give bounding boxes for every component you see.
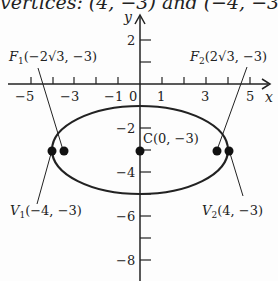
y-tick-label: −6: [116, 209, 135, 224]
y-axis-label: y: [123, 9, 133, 25]
y-tick-label: 2: [127, 33, 135, 48]
x-axis-label: x: [265, 89, 273, 105]
vertex-v2-label: V2(4, −3): [202, 203, 263, 220]
focus-f1-label: F1(−2√3, −3): [8, 49, 97, 66]
y-tick-label: −4: [116, 165, 135, 180]
x-tick-label: 5: [246, 89, 254, 104]
y-tick-label: −8: [116, 253, 135, 268]
x-tick-label: −5: [15, 89, 34, 104]
center-point: [136, 147, 145, 156]
leader-lines: [37, 67, 247, 204]
x-tick-label: −3: [60, 89, 79, 104]
x-tick-label: 0: [129, 89, 137, 104]
x-tick-label: 3: [201, 89, 209, 104]
y-tick-label: −2: [116, 121, 135, 136]
vertex-v1-label: V1(−4, −3): [10, 203, 82, 220]
x-tick-label: 1: [157, 89, 165, 104]
center-label: C(0, −3): [143, 131, 199, 146]
ellipse-diagram: vertices: (4, −3) and (−4, −3): [0, 0, 278, 281]
focus-f2-point: [213, 147, 222, 156]
x-tick-label: −1: [104, 89, 123, 104]
vertex-v1-point: [48, 147, 57, 156]
focus-f1-point: [60, 147, 69, 156]
vertex-v2-point: [225, 147, 234, 156]
coordinate-plane: y x −5 −3 −1 0 1 3 5 2 −2 −4 −6 −8 F1(−2: [0, 0, 278, 281]
focus-f2-label: F2(2√3, −3): [189, 49, 267, 66]
